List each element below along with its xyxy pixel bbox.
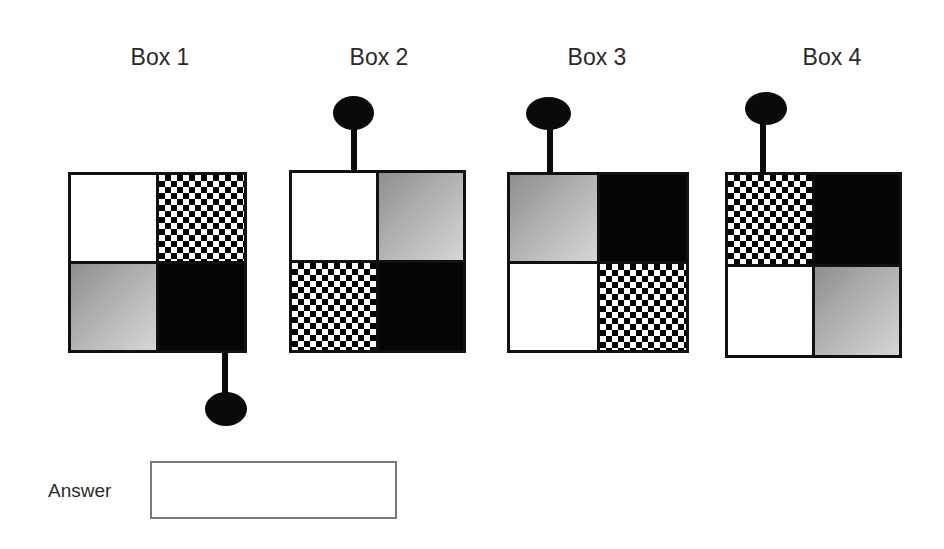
box-3-cell-bottom-left-white [510, 264, 597, 350]
box-3-handle-knob-icon [526, 97, 571, 130]
box-2-cell-bottom-left-checker [292, 263, 376, 350]
box-2-cell-top-left-white [292, 173, 376, 260]
box-1-cell-bottom-right-black [159, 264, 244, 350]
box-3-title: Box 3 [537, 44, 657, 70]
box-1 [68, 172, 247, 353]
box-1-cell-top-left-white [71, 175, 156, 261]
box-4-cell-top-right-black [815, 175, 899, 264]
box-4-cell-bottom-right-gray [815, 267, 899, 356]
box-4-cell-bottom-left-white [728, 267, 812, 356]
box-4-handle-knob-icon [745, 92, 787, 125]
answer-label: Answer [48, 480, 111, 502]
box-4-title: Box 4 [772, 44, 892, 70]
box-1-handle-stem [222, 352, 228, 394]
box-2-title: Box 2 [319, 44, 439, 70]
box-3-cell-top-right-black [600, 175, 687, 261]
box-1-handle-knob-icon [205, 392, 247, 426]
box-1-cell-bottom-left-gray [71, 264, 156, 350]
box-3 [507, 172, 689, 353]
answer-input[interactable] [150, 461, 397, 519]
box-2 [289, 170, 466, 353]
box-2-cell-bottom-right-black [379, 263, 463, 350]
box-3-cell-top-left-gray [510, 175, 597, 261]
box-4-cell-top-left-checker [728, 175, 812, 264]
box-2-cell-top-right-gray [379, 173, 463, 260]
box-3-cell-bottom-right-checker [600, 264, 687, 350]
box-1-cell-top-right-checker [159, 175, 244, 261]
box-4 [725, 172, 902, 358]
box-1-title: Box 1 [100, 44, 220, 70]
box-2-handle-knob-icon [333, 96, 374, 130]
